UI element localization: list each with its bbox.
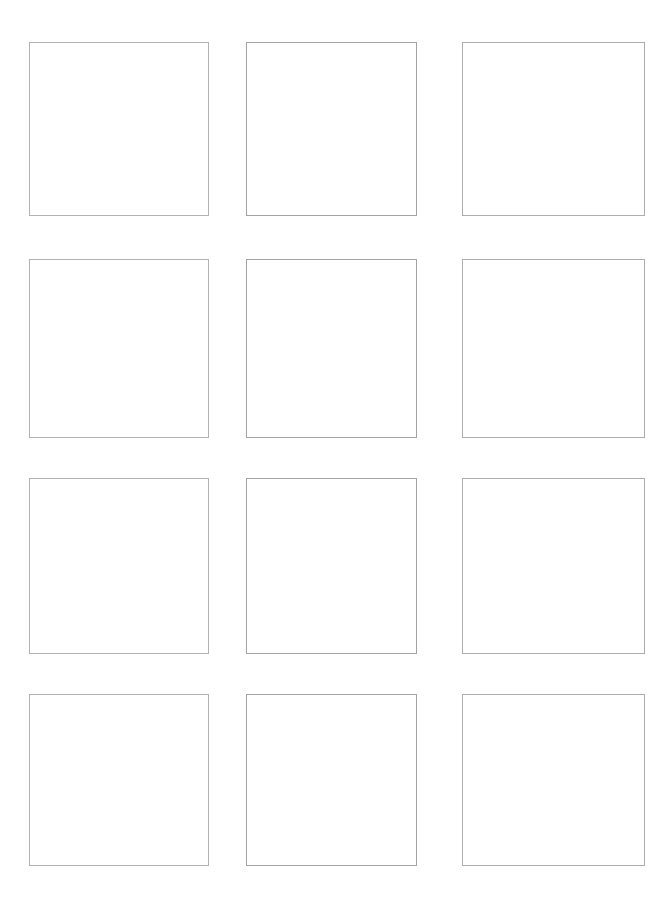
grid-square-cell-r4c2[interactable]: [246, 694, 417, 866]
grid-square-cell-r3c2[interactable]: [246, 478, 417, 654]
grid-square-cell-r2c2[interactable]: [246, 259, 417, 438]
grid-canvas: [0, 0, 671, 908]
grid-square-cell-r4c3[interactable]: [462, 694, 645, 866]
grid-square-cell-r1c2[interactable]: [246, 42, 417, 216]
grid-square-cell-r2c3[interactable]: [462, 259, 645, 438]
grid-square-cell-r1c1[interactable]: [29, 42, 209, 216]
grid-square-cell-r4c1[interactable]: [29, 694, 209, 866]
grid-square-cell-r3c1[interactable]: [29, 478, 209, 654]
grid-square-cell-r2c1[interactable]: [29, 259, 209, 438]
grid-square-cell-r1c3[interactable]: [462, 42, 645, 216]
grid-square-cell-r3c3[interactable]: [462, 478, 645, 654]
